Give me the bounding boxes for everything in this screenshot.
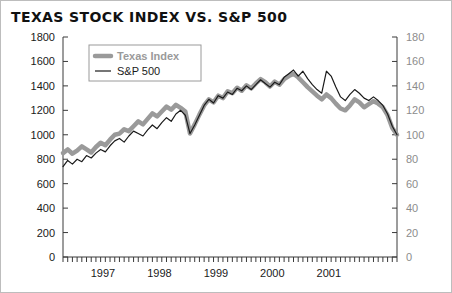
y-axis-right-tick-label: 180: [406, 31, 424, 43]
chart-svg: 0200400600800100012001400160018000204060…: [1, 1, 452, 293]
legend-label-sp500: S&P 500: [117, 65, 160, 77]
y-axis-left-tick-label: 1600: [31, 55, 55, 67]
y-axis-right-tick-label: 40: [406, 202, 418, 214]
series-line-sp500: [63, 70, 397, 167]
y-axis-right-tick-label: 120: [406, 104, 424, 116]
x-axis-tick-label: 2000: [260, 267, 284, 279]
y-axis-right-tick-label: 20: [406, 227, 418, 239]
y-axis-left-tick-label: 1400: [31, 80, 55, 92]
y-axis-right-tick-label: 160: [406, 55, 424, 67]
y-axis-left-tick-label: 1200: [31, 104, 55, 116]
chart-plot-area: 0200400600800100012001400160018000204060…: [1, 1, 452, 293]
y-axis-left-tick-label: 800: [37, 153, 55, 165]
y-axis-right-tick-label: 80: [406, 153, 418, 165]
series-line-texas-index: [63, 74, 397, 154]
x-axis-tick-label: 2001: [317, 267, 341, 279]
y-axis-left-tick-label: 1800: [31, 31, 55, 43]
x-axis-tick-label: 1997: [91, 267, 115, 279]
legend-label-texas-index: Texas Index: [117, 50, 180, 62]
y-axis-right-tick-label: 100: [406, 129, 424, 141]
y-axis-left-tick-label: 0: [49, 251, 55, 263]
y-axis-left-tick-label: 600: [37, 178, 55, 190]
y-axis-left-tick-label: 1000: [31, 129, 55, 141]
y-axis-right-tick-label: 140: [406, 80, 424, 92]
y-axis-left-tick-label: 400: [37, 202, 55, 214]
y-axis-right-tick-label: 60: [406, 178, 418, 190]
chart-frame: TEXAS STOCK INDEX VS. S&P 500 0200400600…: [0, 0, 452, 293]
y-axis-right-tick-label: 0: [406, 251, 412, 263]
y-axis-left-tick-label: 200: [37, 227, 55, 239]
x-axis-tick-label: 1998: [147, 267, 171, 279]
x-axis-tick-label: 1999: [204, 267, 228, 279]
